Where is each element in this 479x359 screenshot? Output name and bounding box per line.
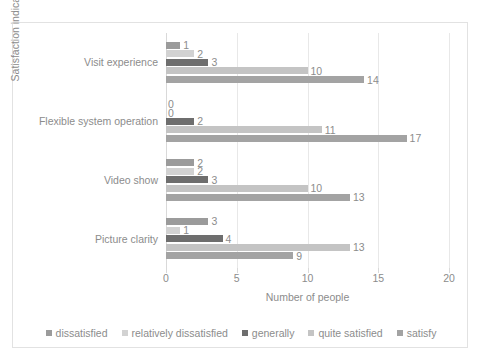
y-axis-title: Satisfaction indicator	[9, 0, 21, 103]
bar-value-label: 3	[211, 216, 217, 227]
category-label: Visit experience	[84, 57, 158, 68]
legend-swatch-icon	[308, 330, 314, 336]
bar-value-label: 17	[410, 133, 422, 144]
bar-value-label: 13	[353, 242, 365, 253]
bar-value-label: 9	[296, 251, 302, 262]
legend-item-dissatisfied[interactable]: dissatisfied	[46, 328, 108, 339]
bar-value-label: 10	[311, 183, 323, 194]
bar-value-label: 3	[211, 57, 217, 68]
bar: 11	[166, 126, 322, 133]
bar: 13	[166, 194, 350, 201]
bar: 3	[166, 176, 208, 183]
x-tick-label-15: 15	[372, 273, 384, 284]
bar: 1	[166, 42, 180, 49]
x-tick-label-20: 20	[443, 273, 455, 284]
bar-value-label: 1	[183, 40, 189, 51]
bar: 1	[166, 227, 180, 234]
legend-swatch-icon	[397, 330, 403, 336]
legend-label: generally	[252, 328, 295, 339]
bar: 3	[166, 59, 208, 66]
gridline-x-20	[449, 33, 450, 268]
bar: 17	[166, 135, 407, 142]
bar: 9	[166, 252, 293, 259]
bar-group: Video show2231013	[166, 159, 449, 200]
x-tick-label-5: 5	[234, 273, 240, 284]
legend-swatch-icon	[122, 330, 128, 336]
bar-value-label: 14	[367, 74, 379, 85]
legend-item-quite-satisfied[interactable]: quite satisfied	[308, 328, 382, 339]
chart-frame: Satisfaction indicator Visit experience1…	[12, 22, 468, 348]
bar: 2	[166, 118, 194, 125]
bar-value-label: 1	[183, 225, 189, 236]
plot-inner: Visit experience1231014Flexible system o…	[166, 33, 449, 268]
chart-legend: dissatisfiedrelatively dissatisfiedgener…	[33, 328, 449, 339]
bar: 10	[166, 185, 308, 192]
x-axis-title: Number of people	[166, 291, 449, 303]
legend-label: quite satisfied	[318, 328, 382, 339]
bar: 2	[166, 168, 194, 175]
legend-label: satisfy	[407, 328, 437, 339]
bar-group: Visit experience1231014	[166, 42, 449, 83]
bar-value-label: 13	[353, 192, 365, 203]
legend-item-satisfy[interactable]: satisfy	[397, 328, 437, 339]
legend-label: relatively dissatisfied	[132, 328, 228, 339]
bar-value-label: 2	[197, 166, 203, 177]
plot-area: Visit experience1231014Flexible system o…	[166, 33, 449, 268]
bar-value-label: 0	[168, 107, 174, 118]
x-tick-label-0: 0	[163, 273, 169, 284]
legend-item-relatively-dissatisfied[interactable]: relatively dissatisfied	[122, 328, 228, 339]
bar-value-label: 2	[197, 49, 203, 60]
bar: 14	[166, 76, 364, 83]
category-label: Flexible system operation	[39, 116, 158, 127]
bar: 13	[166, 244, 350, 251]
bar-value-label: 4	[226, 233, 232, 244]
legend-swatch-icon	[242, 330, 248, 336]
bar-value-label: 3	[211, 175, 217, 186]
category-label: Video show	[104, 175, 158, 186]
bar-group: Picture clarity314139	[166, 218, 449, 259]
bar: 2	[166, 159, 194, 166]
x-axis-tick-labels: 05101520	[166, 273, 449, 287]
bar-group: Flexible system operation0021117	[166, 100, 449, 141]
legend-item-generally[interactable]: generally	[242, 328, 295, 339]
legend-swatch-icon	[46, 330, 52, 336]
bar: 10	[166, 67, 308, 74]
bar-value-label: 11	[325, 124, 336, 135]
x-tick-label-10: 10	[302, 273, 314, 284]
bar: 4	[166, 235, 223, 242]
bar-value-label: 10	[311, 66, 323, 77]
bar: 2	[166, 50, 194, 57]
legend-label: dissatisfied	[56, 328, 108, 339]
bar-value-label: 2	[197, 116, 203, 127]
category-label: Picture clarity	[95, 234, 158, 245]
